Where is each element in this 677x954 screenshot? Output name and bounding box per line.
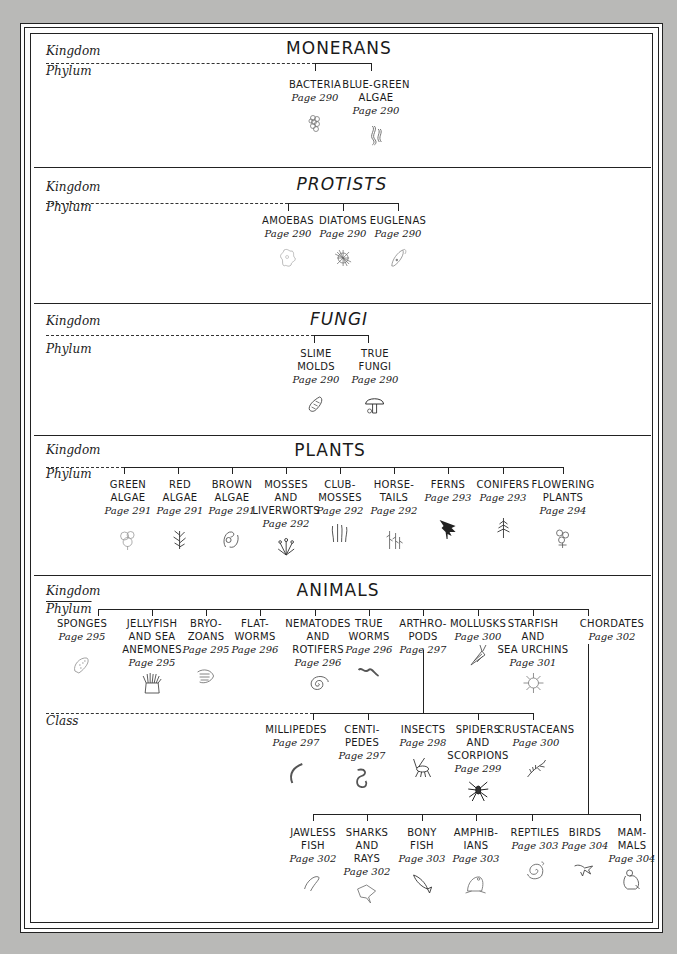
page-ref[interactable]: Page 290 — [342, 104, 409, 117]
phylum-mosses-and-liverworts[interactable]: MOSSES AND LIVERWORTS Page 292 — [252, 478, 320, 557]
phylum-label: Phylum — [46, 467, 92, 481]
phylum-flatworms[interactable]: FLAT- WORMS Page 296 — [232, 617, 279, 656]
phylum-sponges[interactable]: SPONGES Page 295 — [57, 617, 107, 677]
phylum-chordates[interactable]: CHORDATES Page 302 — [580, 617, 644, 643]
page-ref[interactable]: Page 300 — [498, 736, 575, 749]
page-ref[interactable]: Page 290 — [370, 227, 426, 240]
phylum-slime-molds[interactable]: SLIME MOLDS Page 290 — [293, 347, 340, 416]
page-ref[interactable]: Page 291 — [209, 504, 256, 517]
class-name: MILLIPEDES — [265, 723, 326, 736]
page-ref[interactable]: Page 296 — [346, 643, 393, 656]
phylum-diatoms[interactable]: DIATOMS Page 290 — [319, 214, 367, 270]
phylum-brown-algae[interactable]: BROWN ALGAE Page 291 — [209, 478, 256, 551]
page-ref[interactable]: Page 298 — [400, 736, 447, 749]
phylum-true-fungi[interactable]: TRUE FUNGI Page 290 — [352, 347, 399, 416]
class-name: AMPHIB- IANS — [453, 826, 500, 852]
page-ref[interactable]: Page 297 — [265, 736, 326, 749]
connector — [367, 814, 368, 821]
page-ref[interactable]: Page 302 — [580, 630, 644, 643]
class-insects[interactable]: INSECTS Page 298 — [400, 723, 447, 779]
class-amphibians[interactable]: AMPHIB- IANS Page 303 — [453, 826, 500, 895]
class-sharks-and-rays[interactable]: SHARKS AND RAYS Page 302 — [344, 826, 391, 905]
phylum-conifers[interactable]: CONIFERS Page 293 — [476, 478, 529, 540]
class-reptiles[interactable]: REPTILES Page 303 — [511, 826, 560, 882]
phylum-name: GREEN ALGAE — [105, 478, 152, 504]
page-ref[interactable]: Page 290 — [352, 373, 399, 386]
phylum-starfish-and-sea-urchins[interactable]: STARFISH AND SEA URCHINS Page 301 — [497, 617, 568, 695]
class-millipedes[interactable]: MILLIPEDES Page 297 — [265, 723, 326, 785]
page-ref[interactable]: Page 302 — [290, 852, 337, 865]
insect-icon — [411, 755, 435, 779]
phylum-ferns[interactable]: FERNS Page 293 — [425, 478, 472, 540]
page-ref[interactable]: Page 303 — [453, 852, 500, 865]
connector — [343, 203, 344, 211]
phylum-name: FERNS — [425, 478, 472, 491]
page-ref[interactable]: Page 303 — [511, 839, 560, 852]
phylum-club-mosses[interactable]: CLUB- MOSSES Page 292 — [317, 478, 364, 544]
euglena-icon — [386, 246, 410, 270]
phylum-red-algae[interactable]: RED ALGAE Page 291 — [157, 478, 204, 551]
class-jawless-fish[interactable]: JAWLESS FISH Page 302 — [290, 826, 337, 895]
page-ref[interactable]: Page 304 — [609, 852, 656, 865]
page-ref[interactable]: Page 290 — [319, 227, 367, 240]
section-divider — [34, 435, 651, 436]
connector — [423, 609, 424, 616]
page-ref[interactable]: Page 292 — [371, 504, 418, 517]
page-ref[interactable]: Page 294 — [532, 504, 595, 517]
phylum-name: MOSSES AND LIVERWORTS — [252, 478, 320, 517]
page-ref[interactable]: Page 291 — [105, 504, 152, 517]
page-ref[interactable]: Page 301 — [497, 656, 568, 669]
page-ref[interactable]: Page 295 — [57, 630, 107, 643]
connector — [315, 63, 316, 71]
phylum-bacteria[interactable]: BACTERIA Page 290 — [289, 78, 341, 134]
phylum-amoebas[interactable]: AMOEBAS Page 290 — [262, 214, 314, 270]
section-divider — [34, 167, 651, 168]
page-ref[interactable]: Page 293 — [476, 491, 529, 504]
page-ref[interactable]: Page 290 — [262, 227, 314, 240]
phylum-bryozoans[interactable]: BRYO- ZOANS Page 295 — [183, 617, 230, 688]
page-ref[interactable]: Page 295 — [183, 643, 230, 656]
rank-divider — [46, 203, 288, 204]
page-ref[interactable]: Page 302 — [344, 865, 391, 878]
page-ref[interactable]: Page 295 — [122, 656, 182, 669]
phylum-horsetails[interactable]: HORSE- TAILS Page 292 — [371, 478, 418, 551]
class-crustaceans[interactable]: CRUSTACEANS Page 300 — [498, 723, 575, 781]
class-bony-fish[interactable]: BONY FISH Page 303 — [399, 826, 446, 895]
page-ref[interactable]: Page 296 — [232, 643, 279, 656]
phylum-flowering-plants[interactable]: FLOWERING PLANTS Page 294 — [532, 478, 595, 549]
class-name: MAM- MALS — [609, 826, 656, 852]
bryozoan-icon — [194, 664, 218, 688]
page-ref[interactable]: Page 290 — [289, 91, 341, 104]
class-birds[interactable]: BIRDS Page 304 — [562, 826, 609, 882]
rank-divider — [46, 713, 313, 714]
page-ref[interactable]: Page 291 — [157, 504, 204, 517]
rank-divider — [46, 63, 315, 64]
phylum-name: DIATOMS — [319, 214, 367, 227]
phylum-blue-green-algae[interactable]: BLUE-GREEN ALGAE Page 290 — [342, 78, 409, 147]
phylum-nematodes-and-rotifers[interactable]: NEMATODES AND ROTIFERS Page 296 — [285, 617, 351, 696]
connector — [422, 814, 423, 821]
page-ref[interactable]: Page 290 — [293, 373, 340, 386]
connector — [98, 609, 588, 610]
connector — [232, 467, 233, 474]
phylum-name: RED ALGAE — [157, 478, 204, 504]
phylum-name: CONIFERS — [476, 478, 529, 491]
page-ref[interactable]: Page 304 — [562, 839, 609, 852]
page-ref[interactable]: Page 292 — [252, 517, 320, 530]
sponge-icon — [70, 653, 94, 677]
phylum-jellyfish-and-sea-anemones[interactable]: JELLYFISH AND SEA ANEMONES Page 295 — [122, 617, 182, 695]
page-ref[interactable]: Page 296 — [285, 656, 351, 669]
page-ref[interactable]: Page 297 — [339, 749, 386, 762]
class-mammals[interactable]: MAM- MALS Page 304 — [609, 826, 656, 891]
class-centipedes[interactable]: CENTI- PEDES Page 297 — [339, 723, 386, 790]
page-ref[interactable]: Page 292 — [317, 504, 364, 517]
phylum-euglenas[interactable]: EUGLENAS Page 290 — [370, 214, 426, 270]
phylum-green-algae[interactable]: GREEN ALGAE Page 291 — [105, 478, 152, 551]
page-ref[interactable]: Page 303 — [399, 852, 446, 865]
connector — [533, 713, 534, 720]
phylum-true-worms[interactable]: TRUE WORMS Page 296 — [346, 617, 393, 684]
connector — [371, 63, 372, 71]
page-ref[interactable]: Page 293 — [425, 491, 472, 504]
connector — [124, 467, 563, 468]
phylum-name: SLIME MOLDS — [293, 347, 340, 373]
